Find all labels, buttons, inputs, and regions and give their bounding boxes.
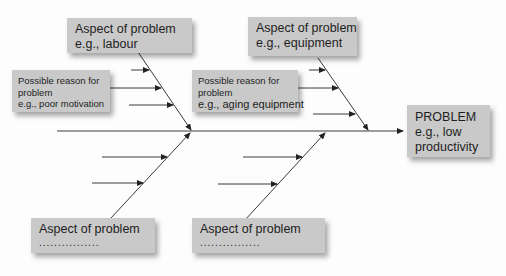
reason-example: e.g., aging equipment [198, 98, 292, 111]
aspect-example: e.g., labour [75, 37, 184, 52]
bone-top-right [318, 58, 368, 130]
aspect-placeholder: ................ [200, 237, 317, 249]
aspect-box-labour: Aspect of problem e.g., labour [67, 18, 192, 53]
problem-box: PROBLEM e.g., low productivity [407, 105, 490, 157]
reason-box-aging-equipment: Possible reason for problem e.g., aging … [192, 70, 298, 112]
aspect-title: Aspect of problem [75, 22, 184, 37]
problem-example-line2: productivity [415, 140, 482, 155]
aspect-example: e.g., equipment [256, 36, 349, 51]
aspect-title: Aspect of problem [256, 21, 349, 36]
aspect-title: Aspect of problem [39, 222, 147, 237]
bone-bottom-left [111, 133, 190, 218]
aspect-box-bottom-left: Aspect of problem ................ [31, 218, 155, 253]
aspect-placeholder: ................ [39, 237, 147, 249]
reason-box-motivation: Possible reason for problem e.g., poor m… [12, 70, 110, 112]
reason-line1: Possible reason for [198, 75, 292, 87]
reason-line1: Possible reason for [18, 75, 104, 87]
reason-line2: problem [198, 87, 292, 99]
reason-example: e.g., poor motivation [18, 98, 104, 110]
problem-title: PROBLEM [415, 110, 482, 125]
bone-bottom-right [245, 133, 325, 220]
aspect-title: Aspect of problem [200, 222, 317, 237]
aspect-box-bottom-right: Aspect of problem ................ [192, 218, 325, 253]
bone-top-left [138, 52, 191, 130]
problem-example-line1: e.g., low [415, 125, 482, 140]
reason-line2: problem [18, 87, 104, 99]
aspect-box-equipment: Aspect of problem e.g., equipment [248, 17, 357, 56]
